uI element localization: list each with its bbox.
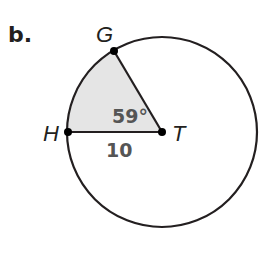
label-g: G bbox=[96, 22, 113, 47]
point-g bbox=[110, 47, 118, 55]
radius-length: 10 bbox=[106, 139, 132, 161]
circle-sector-figure: b. G H T 59° 10 bbox=[0, 0, 266, 270]
point-t bbox=[158, 128, 166, 136]
angle-measure: 59° bbox=[112, 105, 148, 127]
label-h: H bbox=[43, 121, 59, 146]
label-t: T bbox=[172, 121, 187, 146]
part-label: b. bbox=[8, 22, 32, 47]
point-h bbox=[64, 128, 72, 136]
